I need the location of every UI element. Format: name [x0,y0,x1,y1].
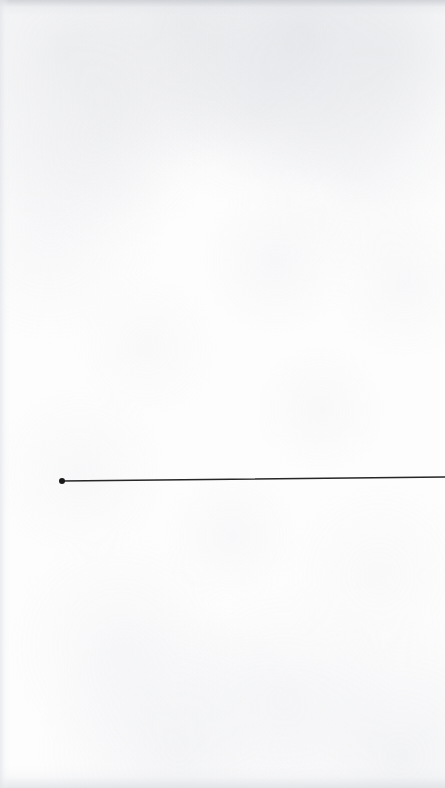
paper-background [0,0,445,788]
scanned-page [0,0,445,788]
